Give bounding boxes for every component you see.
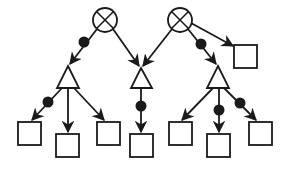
square-node (130, 134, 153, 157)
edge-arrow (136, 88, 147, 132)
edge-arrow (182, 88, 213, 120)
crossed-circle-node (93, 8, 117, 32)
edge-arrow (214, 88, 225, 132)
edge-arrow (113, 29, 139, 66)
nodes-layer (18, 8, 272, 157)
filled-dot-icon (196, 39, 207, 50)
triangle-node (131, 68, 152, 88)
square-node (249, 122, 272, 145)
arrow-line (74, 88, 104, 120)
square-node (56, 134, 79, 157)
edge-arrow (32, 88, 62, 120)
arrow-line (143, 29, 172, 66)
triangle-node (207, 66, 229, 88)
edge-arrow (143, 29, 172, 66)
filled-dot-icon (214, 105, 225, 116)
filled-dot-icon (235, 98, 246, 109)
square-node (18, 122, 41, 145)
filled-dot-icon (79, 37, 90, 48)
edge-arrow (224, 88, 256, 120)
square-node (97, 122, 120, 145)
triangle-node (57, 66, 79, 88)
filled-dot-icon (43, 97, 54, 108)
filled-dot-icon (136, 101, 147, 112)
crossed-circle-node (168, 8, 192, 32)
square-node (234, 45, 257, 68)
square-node (207, 134, 230, 157)
diagram-canvas (0, 0, 287, 169)
square-node (169, 122, 192, 145)
edge-arrow (74, 88, 104, 120)
arrow-line (182, 88, 213, 120)
edge-arrow (70, 29, 97, 64)
arrow-line (113, 29, 139, 66)
